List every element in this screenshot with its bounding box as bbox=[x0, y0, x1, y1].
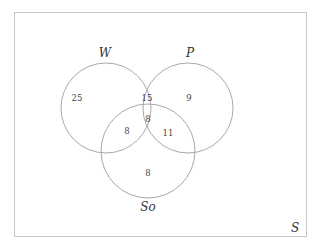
universal-set-label: S bbox=[291, 221, 299, 235]
region-w-only: 25 bbox=[72, 93, 83, 103]
region-w-p-so: 8 bbox=[145, 114, 150, 124]
set-so-label: So bbox=[140, 200, 155, 214]
region-w-and-p: 15 bbox=[142, 93, 153, 103]
region-p-only: 9 bbox=[186, 93, 191, 103]
region-p-and-so: 11 bbox=[163, 128, 174, 138]
region-w-and-so: 8 bbox=[124, 126, 129, 136]
region-so-only: 8 bbox=[145, 168, 150, 178]
set-p-circle bbox=[143, 63, 233, 153]
set-w-label: W bbox=[99, 46, 113, 60]
venn-diagram: W P So S 25 15 9 8 8 11 8 bbox=[0, 0, 321, 245]
set-w-circle bbox=[61, 63, 151, 153]
universal-set-frame bbox=[15, 13, 307, 237]
set-p-label: P bbox=[185, 46, 195, 60]
